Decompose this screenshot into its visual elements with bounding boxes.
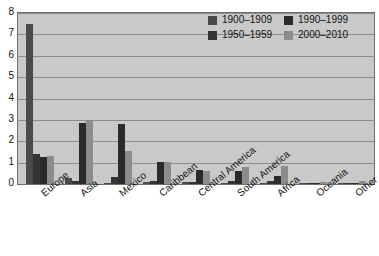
- bar[interactable]: [345, 183, 352, 184]
- x-axis: EuropeAsiaMexicoCaribbeanCentral America…: [17, 186, 375, 256]
- y-tick-label: 6: [8, 50, 14, 60]
- legend-swatch-icon: [208, 16, 217, 25]
- bar[interactable]: [143, 182, 150, 184]
- bar-group: [20, 13, 59, 184]
- legend-label: 1900–1909: [222, 15, 272, 25]
- bar[interactable]: [299, 183, 306, 184]
- y-tick-label: 3: [8, 114, 14, 124]
- legend-swatch-icon: [284, 31, 293, 40]
- x-tick-label: Caribbean: [157, 190, 164, 198]
- bar[interactable]: [235, 171, 242, 184]
- bar-group: [59, 13, 98, 184]
- y-tick-label: 8: [8, 7, 14, 17]
- bar[interactable]: [196, 170, 203, 184]
- bar-group: [137, 13, 176, 184]
- legend-entry[interactable]: 1900–1909: [208, 15, 272, 25]
- x-tick-label: Asia: [78, 190, 85, 198]
- y-tick-label: 4: [8, 93, 14, 103]
- x-tick-label: Europe: [39, 190, 46, 198]
- bar[interactable]: [111, 177, 118, 184]
- bar-chart: 876543210 1900–19091990–19991950–1959200…: [0, 0, 379, 256]
- bar[interactable]: [306, 183, 313, 184]
- x-tick-label: Africa: [275, 190, 282, 198]
- bar[interactable]: [86, 120, 93, 184]
- y-tick-label: 2: [8, 135, 14, 145]
- bar[interactable]: [221, 183, 228, 184]
- bar[interactable]: [40, 157, 47, 184]
- legend-entry[interactable]: 1990–1999: [284, 15, 348, 25]
- y-axis: 876543210: [0, 0, 16, 190]
- x-tick-label: South America: [235, 190, 242, 198]
- bar[interactable]: [104, 183, 111, 184]
- x-tick-label: Mexico: [117, 190, 124, 198]
- bar[interactable]: [26, 24, 33, 184]
- legend-swatch-icon: [284, 16, 293, 25]
- bar[interactable]: [118, 124, 125, 184]
- bar[interactable]: [182, 182, 189, 184]
- bar[interactable]: [228, 181, 235, 184]
- legend-entry[interactable]: 1950–1959: [208, 30, 272, 40]
- x-tick-label: Oceania: [314, 190, 321, 198]
- bar[interactable]: [33, 154, 40, 184]
- y-tick-label: 7: [8, 28, 14, 38]
- legend-label: 1990–1999: [298, 15, 348, 25]
- y-tick-label: 5: [8, 71, 14, 81]
- bar[interactable]: [189, 182, 196, 184]
- bar[interactable]: [72, 181, 79, 184]
- bar-group: [98, 13, 137, 184]
- y-tick-label: 0: [8, 178, 14, 188]
- legend-entry[interactable]: 2000–2010: [284, 30, 348, 40]
- y-tick-label: 1: [8, 157, 14, 167]
- legend-label: 2000–2010: [298, 30, 348, 40]
- bar[interactable]: [79, 123, 86, 184]
- x-tick-label: Central America: [196, 190, 203, 198]
- x-tick-label: Other: [353, 190, 360, 198]
- legend-label: 1950–1959: [222, 30, 272, 40]
- bar[interactable]: [267, 181, 274, 184]
- bar[interactable]: [150, 181, 157, 184]
- bar[interactable]: [274, 176, 281, 184]
- legend: 1900–19091990–19991950–19592000–2010: [205, 14, 351, 41]
- bar[interactable]: [157, 162, 164, 184]
- bar[interactable]: [338, 183, 345, 184]
- bar[interactable]: [260, 183, 267, 184]
- legend-swatch-icon: [208, 31, 217, 40]
